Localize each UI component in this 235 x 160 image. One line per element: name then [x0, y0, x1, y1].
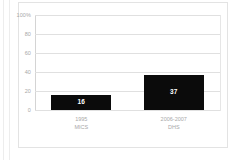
- category-survey: DHS: [124, 124, 224, 132]
- bar-value-label: 37: [144, 88, 204, 95]
- page-edge-rule-inner: [9, 0, 10, 160]
- category-survey: MICS: [31, 124, 131, 132]
- gridline-60: 60: [35, 53, 220, 54]
- plot-area: 020406080100%1637: [35, 15, 220, 110]
- bar[interactable]: 37: [144, 75, 204, 110]
- bar-chart-figure: 020406080100%1637 1995MICS2006-2007DHS: [0, 0, 235, 160]
- plot-right-edge: [220, 15, 221, 111]
- category-year: 1995: [75, 116, 87, 122]
- page-edge-rule-left: [3, 0, 4, 160]
- gridline-0: 0: [35, 110, 220, 111]
- gridline-80: 80: [35, 34, 220, 35]
- y-axis-tick-label: 40: [25, 69, 31, 75]
- gridline-40: 40: [35, 72, 220, 73]
- x-axis-category-label: 1995MICS: [31, 116, 131, 132]
- y-axis-tick-label: 80: [25, 31, 31, 37]
- bar-value-label: 16: [51, 98, 111, 105]
- y-axis-tick-label: 60: [25, 50, 31, 56]
- x-axis-category-label: 2006-2007DHS: [124, 116, 224, 132]
- bar[interactable]: 16: [51, 95, 111, 110]
- y-axis-tick-label: 100%: [17, 12, 31, 18]
- gridline-100: 100%: [35, 15, 220, 16]
- y-axis-tick-label: 20: [25, 88, 31, 94]
- category-year: 2006-2007: [161, 116, 187, 122]
- y-axis-tick-label: 0: [28, 107, 31, 113]
